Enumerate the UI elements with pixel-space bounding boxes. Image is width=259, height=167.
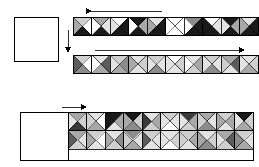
tile	[105, 112, 124, 131]
tile	[147, 55, 166, 74]
figure-canvas	[0, 0, 259, 167]
tile	[235, 112, 254, 131]
tile	[221, 55, 240, 74]
strip-top	[73, 17, 258, 36]
tile	[166, 17, 185, 36]
tile	[129, 55, 148, 74]
tile	[221, 17, 240, 36]
tile	[161, 112, 180, 131]
tile	[68, 112, 87, 131]
tile	[92, 17, 111, 36]
tile	[110, 55, 129, 74]
tile	[92, 55, 111, 74]
tile	[216, 112, 235, 131]
tile	[161, 131, 180, 150]
tile	[166, 55, 185, 74]
tile	[147, 17, 166, 36]
tile	[184, 17, 203, 36]
square-bottom-left	[20, 112, 68, 160]
tile	[203, 55, 222, 74]
tile	[105, 131, 124, 150]
tile	[124, 131, 143, 150]
tile	[124, 112, 143, 131]
tile	[235, 131, 254, 150]
tiling-diagram	[0, 0, 259, 167]
tile	[179, 112, 198, 131]
strip-middle	[73, 55, 258, 74]
tile	[184, 55, 203, 74]
square-left-top	[14, 17, 58, 61]
tile	[142, 131, 161, 150]
tile	[129, 17, 148, 36]
tile	[73, 17, 92, 36]
tile	[198, 131, 217, 150]
tile	[73, 55, 92, 74]
tile	[240, 17, 259, 36]
tile	[216, 131, 235, 150]
tile	[87, 131, 106, 150]
tile	[68, 131, 87, 150]
tile	[87, 112, 106, 131]
tile	[110, 17, 129, 36]
tile	[203, 17, 222, 36]
tile	[179, 131, 198, 150]
tile	[240, 55, 259, 74]
tile	[198, 112, 217, 131]
tile	[142, 112, 161, 131]
